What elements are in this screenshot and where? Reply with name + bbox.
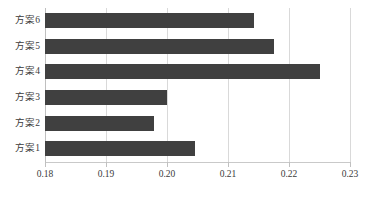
- category-label: 方案1: [15, 144, 40, 154]
- category-label: 方案2: [15, 119, 40, 129]
- category-label: 方案3: [15, 93, 40, 103]
- bar[interactable]: [45, 90, 167, 105]
- x-axis-tick-label: 0.18: [25, 170, 65, 180]
- x-axis-tick-mark: [45, 162, 46, 167]
- x-axis-tick-mark: [167, 162, 168, 167]
- x-axis-tick-mark: [350, 162, 351, 167]
- x-axis-tick-mark: [289, 162, 290, 167]
- x-axis-tick-label: 0.21: [208, 170, 248, 180]
- bar[interactable]: [45, 13, 254, 28]
- bar-row[interactable]: [45, 59, 350, 85]
- category-label: 方案5: [15, 42, 40, 52]
- bar[interactable]: [45, 64, 320, 79]
- bar-row[interactable]: [45, 111, 350, 137]
- bar-chart: 0.180.190.200.210.220.23方案6方案5方案4方案3方案2方…: [0, 0, 369, 202]
- category-label: 方案6: [15, 16, 40, 26]
- bar-row[interactable]: [45, 8, 350, 34]
- x-axis-tick-label: 0.23: [330, 170, 369, 180]
- x-axis-tick-mark: [228, 162, 229, 167]
- x-axis-tick-label: 0.19: [86, 170, 126, 180]
- x-axis-tick-label: 0.22: [269, 170, 309, 180]
- bar-row[interactable]: [45, 85, 350, 111]
- gridline-x: [350, 8, 351, 162]
- bar[interactable]: [45, 116, 154, 131]
- bar[interactable]: [45, 39, 274, 54]
- x-axis-tick-mark: [106, 162, 107, 167]
- x-axis-baseline: [45, 162, 351, 163]
- bar-row[interactable]: [45, 34, 350, 60]
- bar[interactable]: [45, 141, 195, 156]
- x-axis-tick-label: 0.20: [147, 170, 187, 180]
- category-label: 方案4: [15, 67, 40, 77]
- bar-row[interactable]: [45, 136, 350, 162]
